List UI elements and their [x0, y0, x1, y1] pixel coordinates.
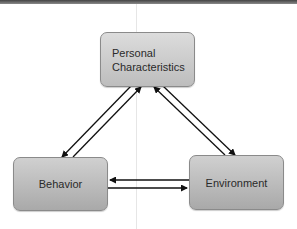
arrow-personal-to-environment — [163, 86, 235, 155]
node-label: Behavior — [39, 178, 82, 190]
arrow-environment-to-personal — [154, 87, 225, 155]
node-environment: Environment — [189, 155, 284, 210]
node-personal-characteristics: Personal Characteristics — [100, 32, 195, 87]
node-behavior: Behavior — [13, 157, 108, 211]
arrow-behavior-to-personal — [73, 87, 141, 157]
node-label-line1: Personal — [112, 46, 185, 60]
diagram-canvas: Personal Characteristics Behavior Enviro… — [0, 0, 297, 229]
arrow-personal-to-behavior — [62, 86, 131, 157]
node-label: Environment — [206, 177, 268, 189]
node-label-line2: Characteristics — [112, 60, 185, 74]
